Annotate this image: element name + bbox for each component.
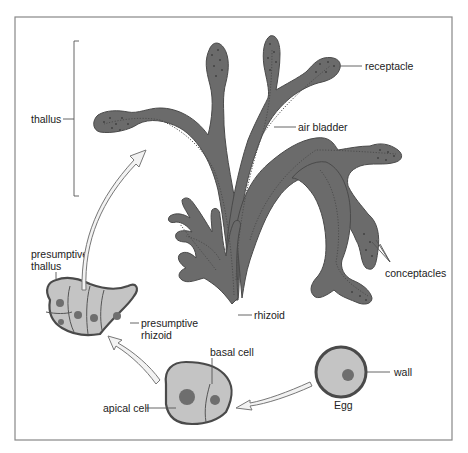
label-presumptive-rhizoid-line1: presumptive	[141, 317, 198, 329]
life-cycle-diagram: thallus receptacle ai	[0, 0, 468, 453]
arrow-embryo-to-adult	[82, 150, 146, 290]
label-presumptive-thallus-line2: thallus	[31, 260, 61, 272]
label-egg: Egg	[334, 399, 353, 411]
label-thallus: thallus	[31, 113, 61, 125]
label-conceptacles: conceptacles	[385, 267, 446, 279]
label-receptacle: receptacle	[365, 60, 414, 72]
two-cell-zygote	[166, 362, 232, 424]
label-rhizoid: rhizoid	[254, 309, 285, 321]
adult-fucus-plant	[94, 36, 402, 304]
thallus-bracket	[63, 41, 79, 196]
egg-cell	[316, 347, 366, 397]
label-basal-cell: basal cell	[210, 346, 254, 358]
embryo-multicellular	[46, 278, 137, 335]
label-presumptive-rhizoid-line2: rhizoid	[141, 329, 172, 341]
label-air-bladder: air bladder	[298, 121, 348, 133]
arrow-egg-to-two-cell	[236, 382, 312, 410]
label-apical-cell: apical cell	[103, 402, 149, 414]
label-wall: wall	[393, 366, 412, 378]
label-presumptive-thallus-line1: presumptive	[31, 248, 88, 260]
arrow-two-cell-to-embryo	[108, 336, 160, 384]
